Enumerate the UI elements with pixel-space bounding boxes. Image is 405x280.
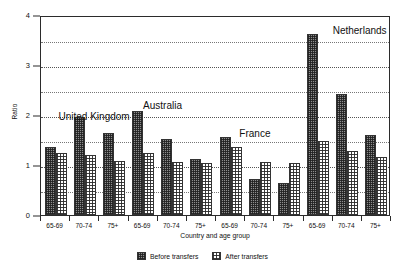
bar-after-65-69 bbox=[56, 153, 67, 216]
bar-before-65-69 bbox=[132, 111, 143, 215]
x-axis-tick-label: 70-74 bbox=[75, 222, 92, 230]
y-axis-tick-mark bbox=[33, 166, 40, 167]
x-axis-tick-label: 75+ bbox=[195, 222, 206, 230]
x-axis-tick-mark bbox=[69, 216, 70, 221]
x-axis-tick-label: 65-69 bbox=[309, 222, 326, 230]
x-axis-tick-mark bbox=[215, 216, 216, 221]
x-axis-tick-label: 65-69 bbox=[134, 222, 151, 230]
bar-before-65-69 bbox=[45, 147, 56, 216]
x-axis-tick-label: 75+ bbox=[370, 222, 381, 230]
bar-after-75+ bbox=[114, 161, 125, 216]
bar-after-75+ bbox=[376, 157, 387, 216]
y-axis-tick-label: 2 bbox=[26, 112, 30, 120]
country-label: Netherlands bbox=[333, 25, 387, 36]
bar-after-70-74 bbox=[347, 151, 358, 215]
country-label: France bbox=[239, 128, 270, 139]
y-axis-label: Ratio bbox=[11, 92, 18, 132]
x-axis-tick-mark bbox=[40, 216, 41, 221]
bar-after-70-74 bbox=[85, 155, 96, 216]
chart-figure: 01234 Ratio United KingdomAustraliaFranc… bbox=[0, 0, 405, 280]
y-axis-tick-label: 4 bbox=[26, 12, 30, 20]
bar-before-70-74 bbox=[74, 117, 85, 216]
x-axis-tick-mark bbox=[186, 216, 187, 221]
legend-swatch-icon bbox=[212, 252, 221, 260]
bar-after-65-69 bbox=[318, 141, 329, 216]
x-axis-tick-label: 70-74 bbox=[163, 222, 180, 230]
x-axis-tick-mark bbox=[390, 216, 391, 221]
x-axis-tick-label: 70-74 bbox=[338, 222, 355, 230]
bar-before-70-74 bbox=[161, 139, 172, 215]
x-axis-tick-mark bbox=[244, 216, 245, 221]
x-axis-tick-label: 75+ bbox=[282, 222, 293, 230]
x-axis-tick-mark bbox=[303, 216, 304, 221]
x-axis-tick-mark bbox=[332, 216, 333, 221]
x-axis-tick-mark bbox=[157, 216, 158, 221]
bar-before-70-74 bbox=[249, 179, 260, 215]
country-label: United Kingdom bbox=[59, 111, 130, 122]
legend-label: After transfers bbox=[225, 253, 268, 260]
x-axis-tick-label: 70-74 bbox=[250, 222, 267, 230]
x-axis-tick-mark bbox=[361, 216, 362, 221]
chart-legend: Before transfersAfter transfers bbox=[0, 252, 405, 260]
bar-after-75+ bbox=[201, 163, 212, 216]
gridline bbox=[41, 42, 389, 43]
x-axis-label: Country and age group bbox=[40, 232, 390, 239]
bar-before-75+ bbox=[103, 133, 114, 215]
legend-entry[interactable]: After transfers bbox=[212, 252, 268, 260]
y-axis: 01234 bbox=[0, 0, 40, 232]
plot-area: United KingdomAustraliaFranceNetherlands bbox=[40, 16, 390, 216]
y-axis-tick-label: 0 bbox=[26, 212, 30, 220]
bar-after-75+ bbox=[289, 163, 300, 216]
x-axis-tick-mark bbox=[98, 216, 99, 221]
y-axis-tick-mark bbox=[33, 66, 40, 67]
y-axis-tick-mark bbox=[33, 216, 40, 217]
legend-entry[interactable]: Before transfers bbox=[137, 252, 198, 260]
gridline bbox=[41, 67, 389, 68]
y-axis-tick-label: 3 bbox=[26, 62, 30, 70]
legend-label: Before transfers bbox=[150, 253, 198, 260]
x-axis-tick-label: 65-69 bbox=[221, 222, 238, 230]
y-axis-tick-mark bbox=[33, 16, 40, 17]
x-axis-tick-label: 75+ bbox=[107, 222, 118, 230]
x-axis-tick-mark bbox=[273, 216, 274, 221]
bar-before-70-74 bbox=[336, 94, 347, 215]
bar-before-65-69 bbox=[220, 137, 231, 216]
bar-before-75+ bbox=[190, 159, 201, 215]
bar-after-70-74 bbox=[260, 162, 271, 216]
bar-before-75+ bbox=[365, 135, 376, 215]
x-axis-tick-label: 65-69 bbox=[46, 222, 63, 230]
bar-before-75+ bbox=[278, 183, 289, 215]
x-axis-tick-mark bbox=[128, 216, 129, 221]
bar-after-65-69 bbox=[231, 147, 242, 216]
y-axis-tick-label: 1 bbox=[26, 162, 30, 170]
gridline bbox=[41, 92, 389, 93]
bar-after-65-69 bbox=[143, 153, 154, 215]
y-axis-tick-mark bbox=[33, 116, 40, 117]
bar-after-70-74 bbox=[172, 162, 183, 215]
legend-swatch-icon bbox=[137, 252, 146, 260]
country-label: Australia bbox=[143, 100, 182, 111]
bar-before-65-69 bbox=[307, 34, 318, 216]
